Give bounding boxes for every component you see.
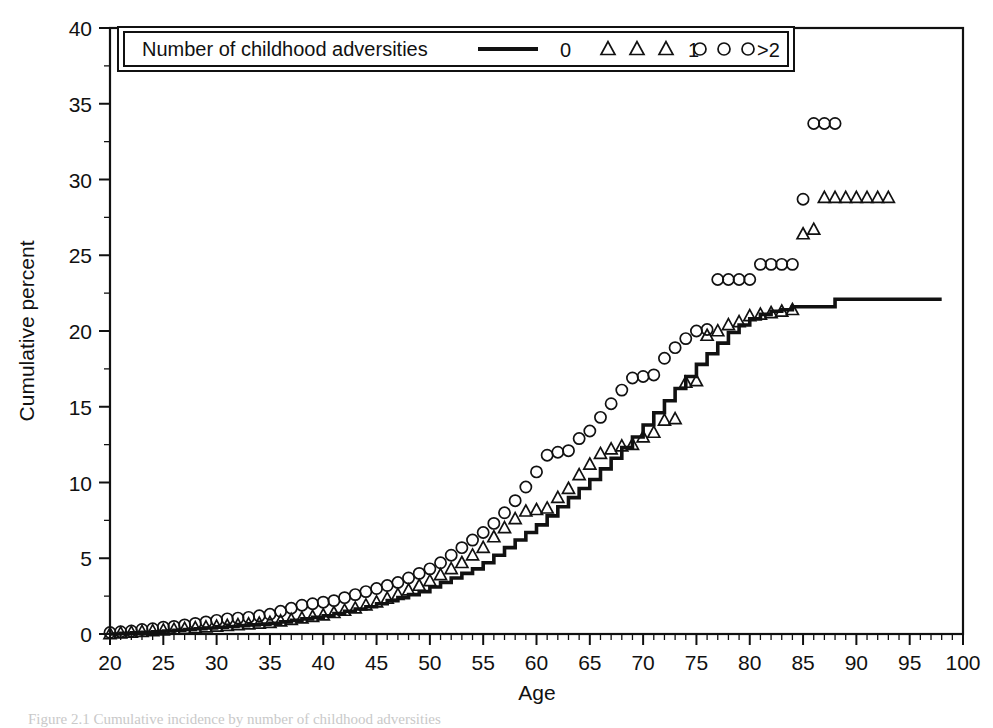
marker-circle xyxy=(627,372,638,383)
marker-circle xyxy=(552,447,563,458)
marker-circle xyxy=(723,274,734,285)
marker-circle xyxy=(371,583,382,594)
marker-circle xyxy=(829,118,840,129)
figure-caption: Figure 2.1 Cumulative incidence by numbe… xyxy=(28,711,441,727)
y-tick-label: 40 xyxy=(69,17,92,40)
marker-circle xyxy=(595,412,606,423)
marker-circle xyxy=(435,557,446,568)
marker-triangle xyxy=(477,541,489,552)
marker-triangle xyxy=(467,549,479,560)
marker-circle xyxy=(478,527,489,538)
marker-circle xyxy=(307,598,318,609)
x-tick-label: 90 xyxy=(845,651,868,674)
marker-circle xyxy=(584,425,595,436)
x-tick-label: 20 xyxy=(98,651,121,674)
y-tick-label: 15 xyxy=(69,396,92,419)
marker-circle xyxy=(392,577,403,588)
marker-circle xyxy=(680,333,691,344)
marker-triangle xyxy=(456,556,468,567)
marker-triangle xyxy=(722,319,734,330)
marker-circle xyxy=(659,353,670,364)
x-tick-label: 65 xyxy=(578,651,601,674)
marker-circle xyxy=(488,518,499,529)
y-tick-label: 30 xyxy=(69,169,92,192)
series-1 xyxy=(104,191,894,638)
marker-circle xyxy=(520,481,531,492)
marker-circle xyxy=(755,259,766,270)
marker-circle xyxy=(296,600,307,611)
marker-circle xyxy=(563,445,574,456)
marker-circle xyxy=(819,118,830,129)
chart-legend: Number of childhood adversities 0 1 >2 xyxy=(118,27,794,71)
marker-triangle xyxy=(797,228,809,239)
figure-container: 20253035404550556065707580859095100 0510… xyxy=(0,0,993,728)
x-tick-label: 25 xyxy=(152,651,175,674)
marker-circle xyxy=(670,342,681,353)
x-tick-label: 35 xyxy=(258,651,281,674)
y-tick-label: 20 xyxy=(69,320,92,343)
marker-circle xyxy=(616,384,627,395)
marker-circle xyxy=(638,371,649,382)
marker-circle xyxy=(467,534,478,545)
marker-triangle xyxy=(861,191,873,202)
marker-circle xyxy=(606,398,617,409)
marker-triangle xyxy=(605,443,617,454)
marker-circle xyxy=(787,259,798,270)
y-axis-ticks xyxy=(99,28,110,634)
marker-triangle xyxy=(573,469,585,480)
marker-circle xyxy=(264,609,275,620)
marker-circle xyxy=(691,325,702,336)
x-tick-label: 85 xyxy=(791,651,814,674)
marker-triangle xyxy=(584,458,596,469)
marker-circle xyxy=(328,595,339,606)
marker-circle xyxy=(424,563,435,574)
marker-circle xyxy=(765,259,776,270)
x-axis-title: Age xyxy=(518,681,555,704)
marker-triangle xyxy=(594,447,606,458)
marker-circle xyxy=(499,507,510,518)
x-tick-label: 75 xyxy=(685,651,708,674)
marker-circle xyxy=(733,274,744,285)
marker-circle xyxy=(797,194,808,205)
y-axis-tick-labels: 0510152025303540 xyxy=(69,17,92,646)
x-tick-label: 80 xyxy=(738,651,761,674)
marker-triangle xyxy=(541,502,553,513)
marker-triangle xyxy=(562,482,574,493)
y-tick-label: 10 xyxy=(69,472,92,495)
step-line-zero-adversities xyxy=(110,299,942,634)
x-tick-label: 55 xyxy=(472,651,495,674)
marker-circle xyxy=(574,433,585,444)
y-axis-title: Cumulative percent xyxy=(15,240,38,421)
x-tick-label: 30 xyxy=(205,651,228,674)
marker-triangle xyxy=(829,191,841,202)
marker-triangle xyxy=(648,426,660,437)
marker-circle xyxy=(446,550,457,561)
legend-label-two-plus: >2 xyxy=(757,39,780,61)
marker-circle xyxy=(350,589,361,600)
marker-circle xyxy=(414,568,425,579)
marker-circle xyxy=(712,274,723,285)
y-tick-label: 5 xyxy=(80,547,92,570)
marker-triangle xyxy=(840,191,852,202)
x-tick-label: 100 xyxy=(945,651,980,674)
marker-triangle xyxy=(509,513,521,524)
marker-circle xyxy=(382,580,393,591)
marker-circle xyxy=(403,572,414,583)
marker-triangle xyxy=(850,191,862,202)
marker-circle xyxy=(808,118,819,129)
x-tick-label: 95 xyxy=(898,651,921,674)
marker-triangle xyxy=(872,191,884,202)
x-axis-ticks xyxy=(110,634,963,645)
y-tick-label: 35 xyxy=(69,93,92,116)
x-tick-label: 45 xyxy=(365,651,388,674)
marker-circle xyxy=(744,274,755,285)
marker-triangle xyxy=(808,223,820,234)
x-tick-label: 70 xyxy=(631,651,654,674)
marker-circle xyxy=(531,466,542,477)
marker-circle xyxy=(510,495,521,506)
marker-circle xyxy=(318,597,329,608)
marker-circle xyxy=(360,586,371,597)
cumulative-incidence-chart: 20253035404550556065707580859095100 0510… xyxy=(0,0,993,728)
marker-circle xyxy=(339,592,350,603)
marker-triangle xyxy=(669,413,681,424)
